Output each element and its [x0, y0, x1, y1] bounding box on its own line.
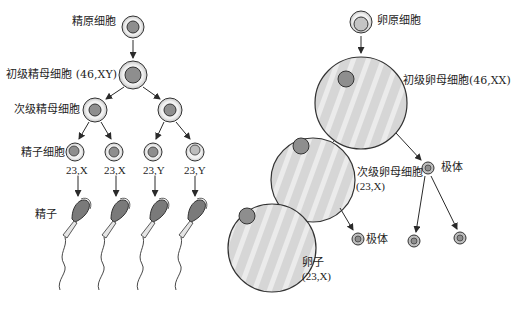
polar-body: [454, 232, 466, 244]
arrow: [396, 133, 421, 160]
arrow: [416, 176, 425, 232]
secondary-spermatocyte-cell: [158, 98, 182, 122]
spermatid-karyotype: 23,X: [104, 164, 126, 177]
oogonium-label: 卵原细胞: [377, 14, 421, 27]
primary-spermatocyte-cell: [119, 61, 147, 89]
spermatid-karyotype: 23,X: [66, 164, 88, 177]
spermatid-karyotype: 23,Y: [143, 164, 165, 177]
arrow: [156, 122, 164, 139]
arrow: [101, 122, 111, 139]
first-polar-body: [422, 162, 434, 174]
spermatid-karyotype: 23,Y: [184, 164, 206, 177]
sperm-cell: [175, 198, 207, 290]
spermatid-cell: [144, 143, 162, 161]
arrow: [143, 87, 160, 99]
arrow: [340, 208, 353, 230]
ovum-karyotype: (23,X): [302, 270, 331, 283]
primary-spermatocyte-label: 初级精母细胞 (46,XY): [6, 68, 117, 81]
primary-oocyte-label: 初级卵母细胞(46,XX): [403, 74, 511, 87]
arrow: [106, 87, 124, 99]
arrow: [431, 176, 457, 229]
spermatid-label: 精子细胞: [21, 146, 65, 159]
spermatogonium-label: 精原细胞: [72, 15, 116, 28]
arrow: [79, 122, 89, 139]
spermatid-cell: [66, 143, 84, 161]
arrow: [176, 122, 190, 139]
second-polar-body-label: 极体: [366, 233, 388, 246]
polar-body: [408, 235, 420, 247]
secondary-spermatocyte-label: 次级精母细胞: [14, 103, 80, 116]
spermatid-cell: [186, 143, 204, 161]
sperm-cell: [137, 198, 169, 290]
first-polar-body-label: 极体: [441, 161, 463, 174]
secondary-oocyte-label: 次级卵母细胞: [357, 166, 423, 179]
spermatid-cell: [105, 143, 123, 161]
primary-oocyte-cell: [315, 57, 407, 149]
oogonium-cell: [350, 11, 372, 33]
ovum-label: 卵子: [302, 256, 324, 269]
spermatogonium-cell: [122, 16, 144, 38]
sperm-label: 精子: [35, 208, 57, 221]
secondary-oocyte-karyotype: (23,X): [356, 180, 385, 193]
sperm-cell: [98, 198, 130, 290]
sperm-cell: [59, 198, 91, 290]
second-polar-body: [352, 233, 364, 245]
secondary-spermatocyte-cell: [83, 98, 107, 122]
